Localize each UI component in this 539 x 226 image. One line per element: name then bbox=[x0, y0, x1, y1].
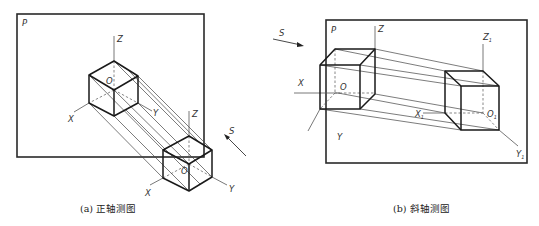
cube-projection-on-plane: Z1 X1 O1 Y1 bbox=[414, 32, 524, 160]
axis-label-z: Z bbox=[191, 109, 198, 119]
axis-label-y: Y bbox=[337, 132, 343, 142]
axis-label-y: Y bbox=[229, 184, 235, 194]
axis-label-y1: Y1 bbox=[516, 149, 524, 160]
axis-label-y: Y bbox=[153, 108, 159, 118]
direction-label-s: S bbox=[229, 126, 235, 136]
axonometric-projection-diagram: P Z O X Y bbox=[0, 0, 539, 226]
projection-rays bbox=[320, 49, 499, 130]
axis-label-x: X bbox=[67, 114, 74, 124]
plane-label-p: P bbox=[331, 25, 337, 35]
axis-label-x: X bbox=[297, 78, 304, 88]
axis-label-x1: X1 bbox=[414, 109, 424, 120]
projection-direction-s-arrow: S bbox=[273, 28, 304, 47]
figure-b-oblique-axonometric: P Z X O Y bbox=[273, 20, 527, 214]
projection-plane-p bbox=[326, 20, 527, 163]
plane-label-p: P bbox=[22, 18, 28, 28]
direction-label-s: S bbox=[279, 28, 285, 38]
cube-in-space: Z X O Y bbox=[294, 24, 384, 142]
projection-direction-s-arrow: S bbox=[224, 126, 246, 156]
axis-label-z: Z bbox=[116, 34, 123, 44]
origin-label-o: O bbox=[181, 166, 188, 176]
origin-label-o: O bbox=[340, 82, 347, 92]
figure-a-orthogonal-axonometric: P Z O X Y bbox=[17, 14, 246, 214]
axis-label-z: Z bbox=[377, 24, 384, 34]
caption-a: (a) 正轴测图 bbox=[80, 203, 136, 214]
axis-label-x: X bbox=[144, 188, 151, 198]
caption-b: (b) 斜轴测图 bbox=[393, 203, 450, 214]
origin-label-o: O bbox=[106, 76, 113, 86]
origin-label-o1: O1 bbox=[487, 109, 497, 120]
axis-label-z1: Z1 bbox=[482, 32, 492, 43]
